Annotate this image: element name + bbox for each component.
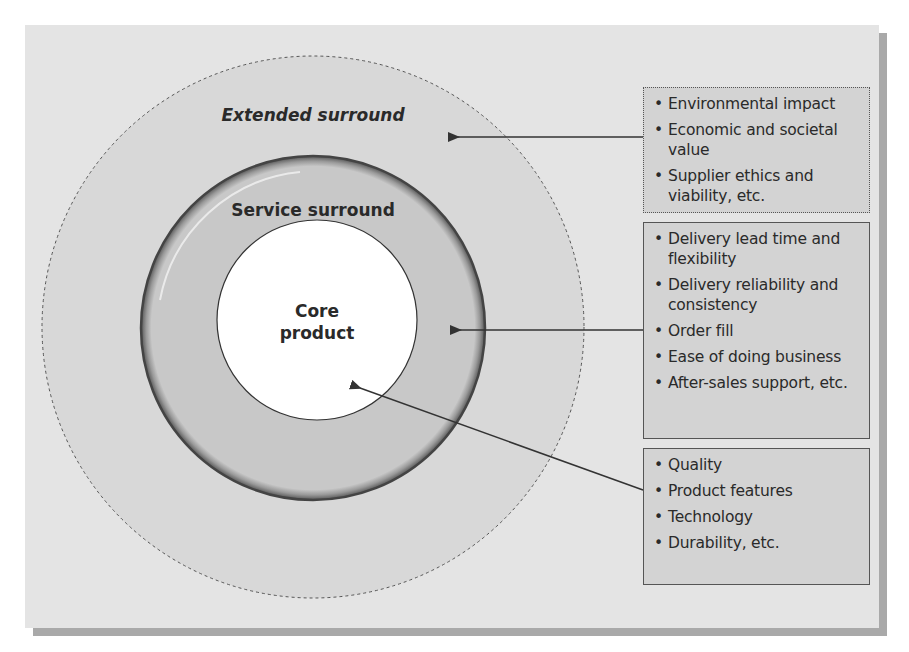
list-item: Delivery reliability and consistency <box>654 275 863 315</box>
service-surround-label: Service surround <box>213 200 413 220</box>
list-item: Environmental impact <box>654 94 863 114</box>
list-item: Quality <box>654 455 863 475</box>
list-item: Delivery lead time and flexibility <box>654 229 863 269</box>
list-item: Technology <box>654 507 863 527</box>
core-label-line2: product <box>247 322 387 344</box>
list-item: Order fill <box>654 321 863 341</box>
list-item: Product features <box>654 481 863 501</box>
extended-surround-label: Extended surround <box>213 105 413 125</box>
core-product-box: Quality Product features Technology Dura… <box>643 448 870 585</box>
core-label-line1: Core <box>247 300 387 322</box>
list-item: Economic and societal value <box>654 120 863 160</box>
list-item: Ease of doing business <box>654 347 863 367</box>
list-item: After-sales support, etc. <box>654 373 863 393</box>
list-item: Supplier ethics and viability, etc. <box>654 166 863 206</box>
core-product-label: Core product <box>247 300 387 344</box>
list-item: Durability, etc. <box>654 533 863 553</box>
service-surround-box: Delivery lead time and flexibility Deliv… <box>643 222 870 439</box>
extended-surround-box: Environmental impact Economic and societ… <box>643 87 870 213</box>
